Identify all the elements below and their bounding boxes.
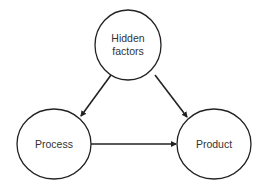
- edge-hidden-to-product: [155, 75, 187, 117]
- node-hidden-factors: Hidden factors: [95, 10, 161, 80]
- causal-diagram: Hidden factors Process Product: [0, 0, 263, 189]
- node-process-label: Process: [35, 138, 73, 150]
- node-process: Process: [17, 109, 91, 179]
- node-hidden-factors-label-line2: factors: [112, 45, 144, 57]
- node-product-label: Product: [196, 138, 232, 150]
- node-hidden-factors-label-line1: Hidden: [111, 32, 144, 44]
- node-product: Product: [177, 109, 251, 179]
- edge-hidden-to-process: [81, 75, 111, 116]
